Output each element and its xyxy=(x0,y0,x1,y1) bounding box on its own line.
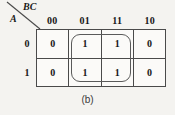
kmap-cell-r1c01: 1 xyxy=(69,59,101,87)
kmap-cell-r1c11: 1 xyxy=(102,59,134,87)
figure-caption: (b) xyxy=(0,94,175,105)
row-header-1: 1 xyxy=(20,58,34,87)
row-header-0: 0 xyxy=(20,29,34,58)
kmap-cell-r1c00: 0 xyxy=(37,59,69,87)
kmap-grid: 0 1 1 0 0 1 1 0 xyxy=(36,29,166,87)
column-header-01: 01 xyxy=(69,13,102,28)
kmap-cell-r0c10: 0 xyxy=(134,30,165,58)
column-header-10: 10 xyxy=(134,13,167,28)
kmap-cell-r0c00: 0 xyxy=(37,30,69,58)
kmap-row-0: 0 1 1 0 xyxy=(37,30,165,59)
column-header-00: 00 xyxy=(36,13,69,28)
row-variable-label: A xyxy=(10,13,17,24)
karnaugh-map-figure: BC A 00 01 11 10 0 1 0 1 1 0 0 1 1 0 (b) xyxy=(0,0,175,115)
kmap-row-1: 0 1 1 0 xyxy=(37,59,165,87)
kmap-cell-r1c10: 0 xyxy=(134,59,165,87)
kmap-column-headers: 00 01 11 10 xyxy=(36,13,166,28)
kmap-row-headers: 0 1 xyxy=(20,29,34,87)
kmap-cell-r0c01: 1 xyxy=(69,30,101,58)
column-header-11: 11 xyxy=(101,13,134,28)
kmap-cell-r0c11: 1 xyxy=(102,30,134,58)
column-variable-label: BC xyxy=(23,1,36,12)
